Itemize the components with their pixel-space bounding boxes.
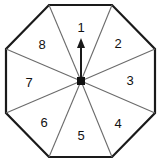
sector-label-7: 7	[25, 75, 32, 90]
sector-label-5: 5	[77, 128, 84, 143]
octagonal-spinner-figure: 1 2 3 4 5 6 7 8	[0, 0, 161, 163]
sector-label-2: 2	[114, 36, 121, 51]
center-pivot-icon	[77, 77, 85, 85]
sector-label-8: 8	[38, 37, 45, 52]
sector-label-4: 4	[114, 116, 121, 131]
sector-label-1: 1	[77, 20, 84, 35]
spinner-diagram: 1 2 3 4 5 6 7 8	[0, 0, 161, 163]
sector-label-3: 3	[126, 73, 133, 88]
sector-label-6: 6	[40, 115, 47, 130]
